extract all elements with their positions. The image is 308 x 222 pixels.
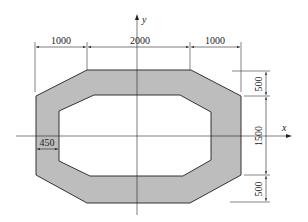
dim-top-right: 1000: [205, 35, 225, 46]
y-axis-arrow-icon: [135, 14, 139, 20]
octagon-section: [36, 70, 241, 203]
cross-section-diagram: y x 1000 2000 1000 500 1500 500 450: [0, 0, 308, 222]
dim-right-middle: 1500: [253, 126, 264, 146]
dim-top-middle: 2000: [130, 35, 150, 46]
dim-top-left: 1000: [51, 35, 71, 46]
dim-wall-thickness: 450: [40, 137, 55, 148]
y-axis-label: y: [141, 14, 147, 25]
x-axis-arrow-icon: [286, 134, 292, 138]
x-axis-label: x: [281, 122, 287, 133]
dim-right-bottom: 500: [253, 182, 264, 197]
dim-right-top: 500: [253, 77, 264, 92]
